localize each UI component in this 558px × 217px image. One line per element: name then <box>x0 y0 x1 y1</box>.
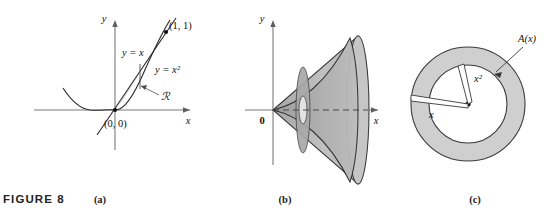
panel-b-svg: y x 0 <box>200 0 390 185</box>
sublabel-b: (b) <box>265 194 305 205</box>
x-axis-label-b: x <box>373 115 379 126</box>
sublabel-a: (a) <box>80 194 120 205</box>
label-curve-line: y = x <box>121 47 144 58</box>
panel-b-solid-of-revolution: y x 0 <box>200 0 390 185</box>
y-axis-label-b: y <box>259 13 265 24</box>
axes-group-a <box>34 20 190 150</box>
x-axis-label-a: x <box>185 115 191 126</box>
point-0-0-marker <box>113 108 117 112</box>
y-axis-arrowhead <box>112 20 117 27</box>
label-inner-radius: x² <box>473 73 483 84</box>
point-1-1-marker <box>164 30 168 34</box>
label-area-function: A(x) <box>517 33 537 45</box>
region-leader-arrowhead <box>141 85 147 90</box>
y-axis-label-a: y <box>101 13 107 24</box>
panel-c-svg: A(x) x x² <box>390 0 558 185</box>
panel-a-svg: y x y = x y = x² (1, 1) (0, 0) ℛ <box>0 0 200 185</box>
panel-a-region-plot: y x y = x y = x² (1, 1) (0, 0) ℛ <box>0 0 200 185</box>
y-axis-arrowhead-b <box>270 20 275 27</box>
x-axis-arrowhead-b <box>371 107 378 112</box>
curve-parabola-y-equals-x-squared <box>63 20 170 110</box>
label-curve-parabola: y = x² <box>154 64 181 75</box>
label-outer-radius: x <box>428 109 434 120</box>
figure-caption: FIGURE 8 <box>3 193 65 205</box>
x-axis-arrowhead <box>183 107 190 112</box>
panel-c-washer-cross-section: A(x) x x² <box>390 0 558 185</box>
label-point-origin: (0, 0) <box>104 118 127 130</box>
label-origin-b: 0 <box>259 115 264 126</box>
label-region: ℛ <box>161 90 171 102</box>
label-point-upper: (1, 1) <box>169 20 192 32</box>
sublabel-c: (c) <box>455 194 495 205</box>
figure-8: y x y = x y = x² (1, 1) (0, 0) ℛ <box>0 0 558 217</box>
caption-bar: FIGURE 8 (a) (b) (c) <box>0 182 558 217</box>
